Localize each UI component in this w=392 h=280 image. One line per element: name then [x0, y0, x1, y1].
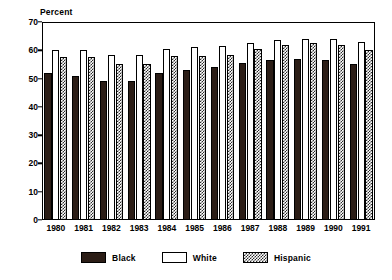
bar-hispanic-1984	[171, 56, 178, 220]
bar-black-1990	[322, 60, 329, 220]
bar-black-1985	[183, 70, 190, 220]
bar-group	[211, 22, 234, 220]
bar-white-1989	[302, 39, 309, 220]
bar-group	[239, 22, 262, 220]
y-axis-tick-label: 30	[12, 130, 38, 140]
bar-hispanic-1988	[282, 45, 289, 220]
bar-group	[155, 22, 178, 220]
bar-hispanic-1981	[88, 57, 95, 220]
legend-item-hispanic: Hispanic	[243, 252, 311, 263]
outline-swatch	[162, 252, 187, 263]
legend-label: Black	[112, 253, 136, 263]
bar-hispanic-1982	[116, 64, 123, 220]
bar-black-1982	[100, 81, 107, 220]
legend-item-white: White	[162, 252, 217, 263]
bar-white-1980	[52, 50, 59, 220]
bar-group	[72, 22, 95, 220]
bar-black-1983	[128, 81, 135, 220]
x-axis-tick-labels: 1980198119821983198419851986198719881989…	[42, 223, 375, 237]
x-axis-tick-label: 1982	[102, 223, 121, 233]
bar-white-1990	[330, 39, 337, 220]
y-axis-unit-label: Percent	[40, 7, 73, 17]
x-axis-tick-label: 1984	[157, 223, 176, 233]
bar-hispanic-1985	[199, 56, 206, 220]
bar-white-1987	[247, 43, 254, 220]
bar-black-1987	[239, 63, 246, 220]
legend-label: White	[193, 253, 217, 263]
y-axis-tick-label: 20	[12, 158, 38, 168]
bar-hispanic-1989	[310, 43, 317, 220]
bar-white-1982	[108, 55, 115, 220]
y-axis-tick-label: 40	[12, 102, 38, 112]
x-axis-tick-label: 1988	[268, 223, 287, 233]
bars-layer	[42, 22, 375, 220]
y-axis-tick-label: 70	[12, 17, 38, 27]
bar-hispanic-1980	[60, 57, 67, 220]
bar-black-1989	[294, 59, 301, 220]
y-axis-tick-label: 10	[12, 187, 38, 197]
bar-white-1984	[163, 49, 170, 220]
bar-group	[128, 22, 151, 220]
bar-hispanic-1991	[365, 50, 372, 220]
y-axis-tick-label: 60	[12, 45, 38, 55]
bar-group	[322, 22, 345, 220]
bar-hispanic-1983	[143, 64, 150, 220]
bar-group	[294, 22, 317, 220]
bar-black-1986	[211, 67, 218, 220]
bar-black-1980	[44, 73, 51, 220]
bar-white-1983	[136, 55, 143, 220]
bar-white-1986	[219, 46, 226, 220]
bar-group	[183, 22, 206, 220]
y-axis-tick-label: 0	[12, 215, 38, 225]
bar-black-1991	[350, 64, 357, 220]
solid-dark-swatch	[81, 252, 106, 263]
bar-black-1984	[155, 73, 162, 220]
hatched-swatch	[243, 252, 268, 263]
bar-chart: Percent 010203040506070 1980198119821983…	[0, 0, 392, 280]
bar-group	[350, 22, 373, 220]
bar-group	[44, 22, 67, 220]
x-axis-tick-label: 1981	[74, 223, 93, 233]
x-axis-tick-label: 1983	[130, 223, 149, 233]
bar-hispanic-1986	[227, 55, 234, 220]
x-axis-tick-label: 1990	[324, 223, 343, 233]
bar-white-1991	[358, 42, 365, 220]
legend-label: Hispanic	[274, 253, 311, 263]
bar-white-1981	[80, 50, 87, 220]
bar-black-1988	[266, 60, 273, 220]
bar-hispanic-1987	[254, 49, 261, 220]
bar-white-1985	[191, 47, 198, 220]
bar-white-1988	[274, 40, 281, 220]
bar-group	[100, 22, 123, 220]
y-axis-tick-label: 50	[12, 74, 38, 84]
x-axis-tick-label: 1985	[185, 223, 204, 233]
x-axis-tick-label: 1980	[46, 223, 65, 233]
x-axis-tick-label: 1986	[213, 223, 232, 233]
x-axis-tick-label: 1987	[241, 223, 260, 233]
x-axis-tick-label: 1989	[296, 223, 315, 233]
bar-black-1981	[72, 76, 79, 220]
x-axis-tick-label: 1991	[352, 223, 371, 233]
legend-item-black: Black	[81, 252, 136, 263]
bar-hispanic-1990	[338, 45, 345, 220]
bar-group	[266, 22, 289, 220]
chart-legend: BlackWhiteHispanic	[0, 252, 392, 263]
